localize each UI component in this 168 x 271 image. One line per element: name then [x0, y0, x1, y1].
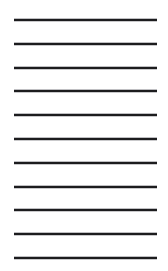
ruled-line: [14, 233, 157, 235]
ruled-line: [14, 43, 157, 45]
ruled-line: [14, 162, 157, 164]
ruled-line: [14, 114, 157, 116]
ruled-lines-group: [0, 0, 168, 271]
ruled-line: [14, 209, 157, 211]
ruled-line: [14, 186, 157, 188]
ruled-line: [14, 257, 157, 259]
lined-paper-document: [0, 0, 168, 271]
ruled-line: [14, 19, 157, 21]
ruled-line: [14, 138, 157, 140]
ruled-line: [14, 90, 157, 92]
ruled-line: [14, 67, 157, 69]
